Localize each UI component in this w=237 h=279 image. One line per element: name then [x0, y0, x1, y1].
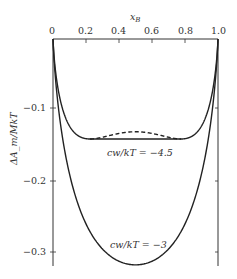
- x-tick-label: 0.2: [78, 25, 93, 36]
- y-tick-label: −0.3: [23, 246, 46, 257]
- curve-cw-minus-4-5-dashed: [90, 132, 181, 139]
- x-tick-label: 1.0: [211, 25, 226, 36]
- curve-label-minus-3: cw/kT = −3: [110, 239, 167, 250]
- x-tick-label: 0.6: [144, 25, 159, 36]
- x-tick-label: 0.8: [178, 25, 193, 36]
- curve-label-minus-4-5: cw/kT = −4.5: [107, 147, 173, 158]
- y-axis-label: ΔA_m/MkT: [8, 112, 20, 166]
- x-tick-label: 0.4: [111, 25, 126, 36]
- x-axis-label: xB: [130, 11, 141, 24]
- y-tick-label: −0.2: [23, 175, 46, 186]
- chart: 0 0.2 0.4 0.6 0.8 1.0 xB −0.1 −0.2 −0.3 …: [0, 0, 237, 279]
- y-ticks: [50, 108, 218, 252]
- x-ticks: [86, 39, 185, 43]
- y-tick-label: −0.1: [23, 102, 46, 113]
- x-tick-label: 0: [49, 25, 55, 36]
- curve-cw-minus-4-5: [53, 39, 218, 139]
